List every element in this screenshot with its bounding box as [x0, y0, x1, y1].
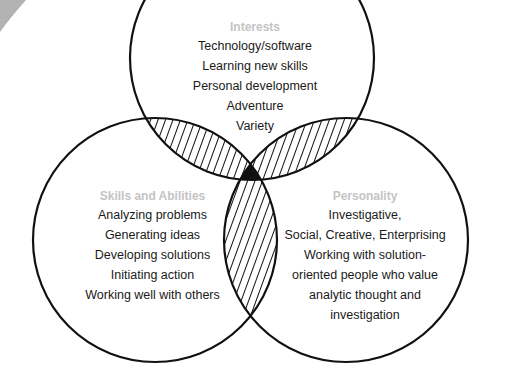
- personality-heading: Personality: [270, 187, 460, 205]
- interests-block: Interests Technology/software Learning n…: [150, 18, 360, 136]
- personality-block: Personality Investigative, Social, Creat…: [270, 187, 460, 325]
- skills-block: Skills and Abilities Analyzing problems …: [60, 187, 245, 305]
- skills-heading: Skills and Abilities: [60, 187, 245, 205]
- interests-heading: Interests: [150, 18, 360, 36]
- interests-item: Learning new skills: [150, 56, 360, 76]
- skills-item: Analyzing problems: [60, 205, 245, 225]
- interests-item: Technology/software: [150, 36, 360, 56]
- skills-item: Developing solutions: [60, 245, 245, 265]
- interests-item: Variety: [150, 116, 360, 136]
- personality-item: Investigative,: [270, 205, 460, 225]
- personality-item: oriented people who value: [270, 265, 460, 285]
- personality-item: analytic thought and: [270, 285, 460, 305]
- personality-item: investigation: [270, 305, 460, 325]
- personality-item: Working with solution-: [270, 245, 460, 265]
- skills-item: Initiating action: [60, 265, 245, 285]
- skills-item: Working well with others: [60, 285, 245, 305]
- skills-item: Generating ideas: [60, 225, 245, 245]
- interests-item: Personal development: [150, 76, 360, 96]
- corner-shape: [0, 0, 26, 32]
- personality-item: Social, Creative, Enterprising: [270, 225, 460, 245]
- interests-item: Adventure: [150, 96, 360, 116]
